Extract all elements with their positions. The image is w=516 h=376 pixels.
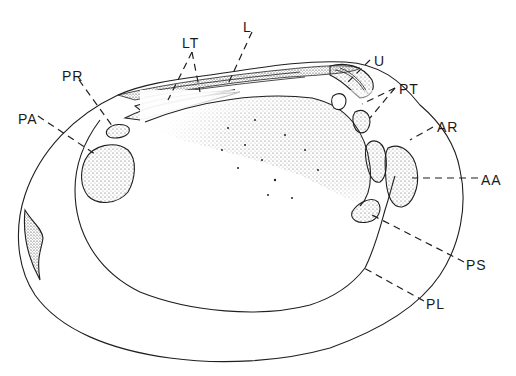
label-anterior-retractor: AR xyxy=(437,120,458,134)
label-protractor-scar: PS xyxy=(466,258,487,272)
label-posterior-retractor: PR xyxy=(62,69,83,83)
shell-drawing xyxy=(0,0,516,376)
anterior-adductor-scar xyxy=(385,146,418,207)
label-lateral-teeth: LT xyxy=(182,36,199,50)
pseudocardinal-tooth-1 xyxy=(332,94,346,110)
label-pseudocardinal-teeth: PT xyxy=(399,82,419,96)
pseudocardinal-tooth-2 xyxy=(353,110,370,132)
label-ligament: L xyxy=(243,20,252,34)
posterior-adductor-scar xyxy=(82,145,135,203)
label-pallial-line: PL xyxy=(426,297,445,311)
label-posterior-adductor: PA xyxy=(18,112,38,126)
posterior-shell-notch xyxy=(24,210,43,280)
label-anterior-adductor: AA xyxy=(481,173,502,187)
posterior-retractor-scar xyxy=(106,124,129,138)
shell-diagram: L LT U PT PR PA AR AA PS PL xyxy=(0,0,516,376)
label-umbo: U xyxy=(374,54,385,68)
